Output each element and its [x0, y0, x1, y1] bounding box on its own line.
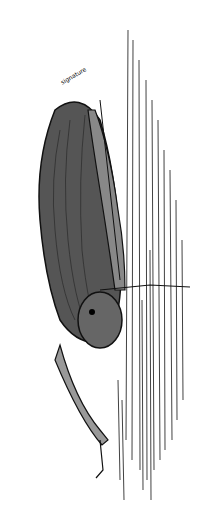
artist-signature: signature: [59, 65, 88, 86]
bat-forearm: [55, 345, 108, 478]
bat-head: [78, 285, 190, 348]
illustration: signature: [0, 0, 211, 518]
tree-trunk: [118, 30, 183, 500]
